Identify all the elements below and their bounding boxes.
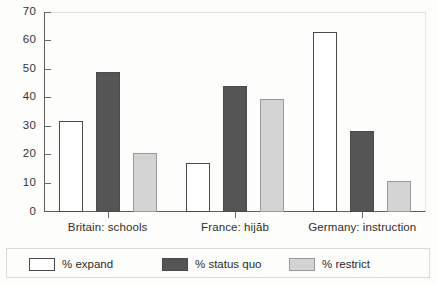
bar-expand-group-1	[59, 121, 83, 212]
y-axis-tick	[44, 97, 51, 98]
y-axis-tick	[44, 126, 51, 127]
legend-swatch-expand-icon	[29, 258, 55, 271]
y-axis-tick-label: 40	[2, 90, 36, 102]
y-axis-tick-label: 60	[2, 33, 36, 45]
bar-expand-group-3	[313, 32, 337, 212]
x-axis-category-label: Germany: instruction	[287, 221, 437, 233]
x-axis-tick	[108, 212, 109, 218]
bar-statusquo-group-3	[350, 131, 374, 212]
bar-expand-group-2	[186, 163, 210, 212]
y-axis-tick-label: 50	[2, 62, 36, 74]
legend-item-label: % expand	[62, 258, 113, 270]
chart-legend: % expand% status quo% restrict	[6, 248, 430, 278]
legend-swatch-statusquo-icon	[162, 258, 188, 271]
legend-item-restrict[interactable]: % restrict	[289, 256, 370, 272]
legend-item-statusquo[interactable]: % status quo	[162, 256, 261, 272]
y-axis-tick-label: 0	[2, 205, 36, 217]
y-axis-tick	[44, 183, 51, 184]
bar-statusquo-group-2	[223, 86, 247, 212]
y-axis-tick-label: 20	[2, 147, 36, 159]
legend-item-label: % restrict	[322, 258, 370, 270]
y-axis-tick	[44, 69, 51, 70]
y-axis-tick	[44, 40, 51, 41]
legend-swatch-restrict-icon	[289, 258, 315, 271]
plot-area: 010203040506070 Britain: schoolsFrance: …	[0, 0, 437, 240]
bar-restrict-group-3	[387, 181, 411, 212]
x-axis-tick	[362, 212, 363, 218]
legend-item-expand[interactable]: % expand	[29, 256, 113, 272]
bar-chart-figure: 010203040506070 Britain: schoolsFrance: …	[0, 0, 437, 284]
y-axis-tick-label: 30	[2, 119, 36, 131]
bar-statusquo-group-1	[96, 72, 120, 212]
x-axis-tick	[235, 212, 236, 218]
y-axis-tick-label: 10	[2, 176, 36, 188]
y-axis-tick-label: 70	[2, 5, 36, 17]
y-axis-tick	[44, 12, 51, 13]
y-axis-tick	[44, 154, 51, 155]
bar-restrict-group-2	[260, 99, 284, 212]
bar-restrict-group-1	[133, 153, 157, 212]
legend-item-label: % status quo	[195, 258, 261, 270]
